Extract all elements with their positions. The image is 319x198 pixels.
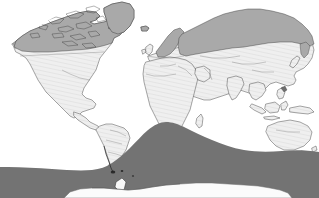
map-canvas — [0, 0, 319, 198]
marker-falklands — [121, 170, 124, 172]
marker-south-georgia — [132, 175, 134, 176]
world-distribution-map — [0, 0, 319, 198]
